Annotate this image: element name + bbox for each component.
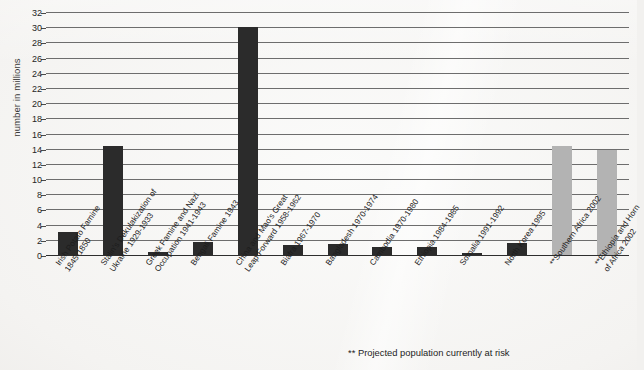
chart-footnote: ** Projected population currently at ris…: [348, 347, 510, 358]
x-axis-label-line: North Korea 1995: [503, 209, 549, 268]
x-axis-label: Somalia 1991-1992: [458, 204, 507, 268]
x-axis-label: Cambodia 1970-1980: [368, 197, 422, 268]
x-axis-label: China and Mao's GreatLeap Forward 1958-1…: [234, 187, 304, 274]
x-axis-label: North Korea 1995: [503, 209, 549, 268]
x-axis-label-line: Cambodia 1970-1980: [368, 197, 422, 268]
x-axis-label-line: Ethiopia 1984-1985: [413, 204, 462, 268]
x-axis-label-line: Somalia 1991-1992: [458, 204, 507, 268]
x-axis-label: Ethiopia 1984-1985: [413, 204, 462, 268]
x-axis-label: **Ethiopia and Hornof Africa 2002: [593, 203, 644, 274]
